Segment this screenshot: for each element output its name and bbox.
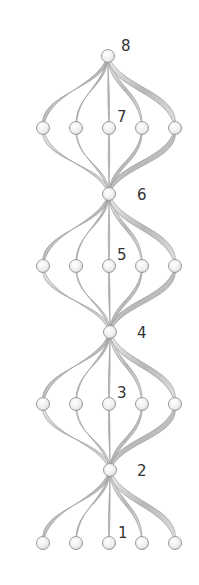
hub-label-2: 2 [137,462,147,480]
row-label-3: 3 [117,384,127,402]
lattice-node [136,122,149,135]
lattice-node [136,398,149,411]
lattice-node [169,260,182,273]
lattice-node [103,260,116,273]
ribbon-strand [43,56,108,128]
lattice-node [103,398,116,411]
ribbon-strand [43,470,110,543]
ribbon-strand [43,194,109,266]
ribbon-strand [43,332,110,404]
ribbon-strand [109,128,176,194]
lattice-node [70,398,83,411]
lattice-node [70,122,83,135]
ribbon-strand [108,128,109,194]
ribbon-strand [110,266,176,332]
lattice-node [70,537,83,550]
hub-node-8 [102,50,115,63]
lattice-node [37,122,50,135]
hub-label-6: 6 [137,186,147,204]
ribbon-strand [43,128,109,194]
row-label-5: 5 [117,246,127,264]
hub-node-4 [104,326,117,339]
ribbon-strand [43,404,110,470]
lattice-node [103,122,116,135]
lattice-node [37,398,50,411]
ribbon-strand [108,194,109,266]
hub-label-8: 8 [121,37,131,55]
lattice-node [103,537,116,550]
lattice-node [70,260,83,273]
row-label-7: 7 [117,108,127,126]
lattice-node [37,260,50,273]
lattice-node [136,260,149,273]
lattice-node [169,122,182,135]
lattice-node [169,537,182,550]
hub-label-4: 4 [137,324,147,342]
ribbon-strand [110,404,176,470]
labels-layer: 86427531 [117,37,147,542]
lattice-node [136,537,149,550]
ribbon-strand [43,266,110,332]
lattice-node [37,537,50,550]
hub-node-2 [104,464,117,477]
row-label-1: 1 [118,524,128,542]
hub-node-6 [103,188,116,201]
ribbon-lattice-diagram: 86427531 [0,0,199,585]
lattice-node [169,398,182,411]
